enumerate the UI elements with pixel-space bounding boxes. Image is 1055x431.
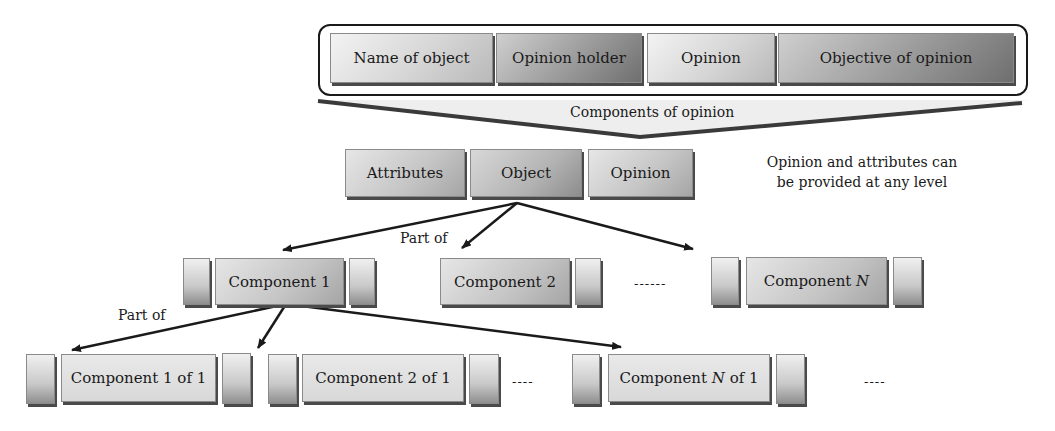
component-n-label: Component N (764, 272, 869, 290)
component-2-text: Component 2 (454, 273, 556, 291)
attributes-label: Attributes (367, 164, 443, 182)
sub-n-right-tab (776, 354, 805, 404)
component-n-text: Component (764, 272, 856, 290)
level-note-line-2: be provided at any level (752, 172, 972, 192)
opinion-label: Opinion (611, 164, 671, 182)
part-of-label-level-1: Part of (400, 230, 448, 246)
part-of-label-level-2: Part of (118, 307, 166, 323)
arrow-component-1-to-sub-2 (258, 304, 286, 348)
component-n-right-tab (893, 257, 922, 305)
component-1-left-tab (183, 258, 210, 305)
subcomponent-ellipsis-2: ---- (864, 374, 886, 389)
arrow-component-1-to-sub-1 (72, 304, 286, 350)
object-box: Object (470, 149, 582, 197)
attributes-box: Attributes (345, 149, 465, 197)
arrow-component-1-to-sub-n (286, 304, 621, 347)
component-1-right-tab (349, 258, 375, 305)
component-1-of-1-box: Component 1 of 1 (61, 354, 216, 402)
components-of-opinion-caption: Components of opinion (570, 104, 734, 120)
component-n-of-1-box: Component N of 1 (608, 354, 770, 402)
component-2-box: Component 2 (440, 258, 570, 305)
component-2-of-1-box: Component 2 of 1 (302, 354, 464, 402)
component-n-left-tab (711, 257, 739, 305)
component-2-right-tab (575, 258, 601, 305)
component-n-of-1-italic: N (712, 369, 725, 387)
component-1-box: Component 1 (215, 258, 344, 305)
sub-1-left-tab (26, 354, 55, 404)
subcomponent-ellipsis-1: ---- (512, 374, 534, 389)
component-n-italic: N (856, 272, 869, 290)
component-1-label: Component 1 (229, 273, 331, 291)
component-n-of-1-label: Component N of 1 (619, 369, 758, 387)
sub-1-right-tab (222, 353, 251, 404)
component-ellipsis: ------ (634, 276, 666, 291)
component-1-text: Component 1 (229, 273, 331, 291)
component-2-label: Component 2 (454, 273, 556, 291)
sub-n-left-tab (572, 354, 600, 404)
arrow-object-to-component-n (517, 203, 693, 249)
sub-2-right-tab (469, 354, 499, 404)
level-note: Opinion and attributes can be provided a… (752, 152, 972, 192)
component-n-of-1-prefix: Component (619, 369, 711, 387)
component-2-of-1-label: Component 2 of 1 (315, 369, 451, 387)
component-n-of-1-suffix: of 1 (725, 369, 759, 387)
sub-2-left-tab (268, 354, 297, 404)
object-label: Object (501, 164, 551, 182)
component-1-of-1-label: Component 1 of 1 (71, 369, 207, 387)
level-note-line-1: Opinion and attributes can (752, 152, 972, 172)
component-n-box: Component N (746, 257, 887, 305)
opinion-box: Opinion (588, 149, 693, 197)
